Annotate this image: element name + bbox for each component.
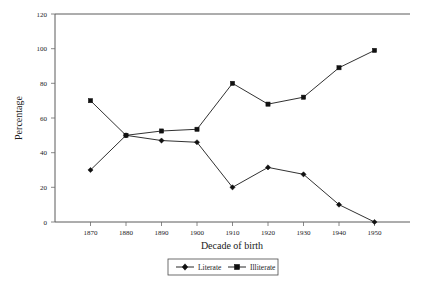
x-tick-label: 1900 (190, 229, 205, 237)
square-marker-icon (88, 99, 92, 103)
x-tick-label: 1880 (119, 229, 134, 237)
y-tick-label: 100 (37, 45, 48, 53)
legend-label-illiterate: Illiterate (250, 263, 276, 272)
legend-item-literate[interactable]: Literate (176, 263, 222, 272)
square-marker-icon (195, 127, 199, 131)
series-line-literate (91, 135, 375, 222)
y-tick-label: 80 (40, 80, 48, 88)
x-tick-label: 1890 (155, 229, 170, 237)
square-marker-icon (266, 102, 270, 106)
series-literate (88, 133, 377, 225)
square-marker-icon (124, 133, 128, 137)
diamond-marker-icon (159, 138, 164, 143)
square-marker-icon (234, 264, 239, 269)
y-axis-tick-labels: 0 20 40 60 80 100 120 (37, 11, 48, 227)
x-axis-title: Decade of birth (201, 240, 263, 251)
x-tick-label: 1920 (261, 229, 276, 237)
diamond-marker-icon (182, 264, 188, 270)
chart-legend: Literate Illiterate (168, 259, 278, 275)
data-series-layer (88, 48, 377, 224)
y-tick-label: 0 (44, 219, 48, 227)
x-tick-label: 1940 (332, 229, 347, 237)
x-axis-ticks (91, 222, 375, 226)
y-tick-label: 120 (37, 11, 48, 19)
series-line-illiterate (91, 50, 375, 135)
y-axis-title: Percentage (13, 96, 24, 140)
x-tick-label: 1930 (297, 229, 312, 237)
square-marker-icon (301, 95, 305, 99)
y-axis-ticks (51, 14, 55, 222)
diamond-marker-icon (372, 219, 377, 224)
square-marker-icon (159, 129, 163, 133)
x-tick-label: 1870 (84, 229, 99, 237)
square-marker-icon (372, 48, 376, 52)
legend-item-illiterate[interactable]: Illiterate (228, 263, 276, 272)
diamond-marker-icon (265, 165, 270, 170)
x-tick-label: 1950 (368, 229, 383, 237)
y-tick-label: 20 (40, 184, 48, 192)
square-marker-icon (337, 66, 341, 70)
x-tick-label: 1910 (226, 229, 241, 237)
x-axis-tick-labels: 187018801890190019101920193019401950 (84, 229, 383, 237)
y-tick-label: 40 (40, 149, 48, 157)
line-chart-figure: 0 20 40 60 80 100 120 Percentage 1870188… (0, 0, 423, 289)
series-illiterate (88, 48, 376, 137)
square-marker-icon (230, 81, 234, 85)
legend-label-literate: Literate (198, 263, 222, 272)
y-tick-label: 60 (40, 115, 48, 123)
